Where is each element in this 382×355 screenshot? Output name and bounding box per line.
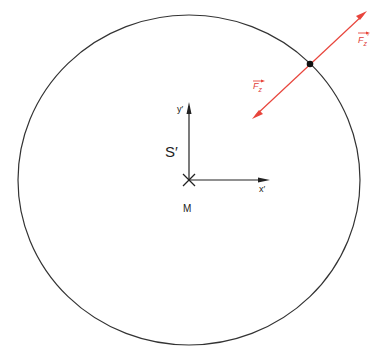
frame-label: S′ xyxy=(165,143,178,160)
diagram-canvas xyxy=(0,0,382,355)
force-upper-sub: z xyxy=(364,40,368,47)
force-arrowhead-lower xyxy=(252,110,263,119)
x-axis-label: x′ xyxy=(259,184,265,194)
contact-point xyxy=(307,61,314,68)
force-label-upper: Fz′ xyxy=(358,33,368,47)
force-lower-sub: z xyxy=(259,86,263,93)
y-axis-label: y′ xyxy=(177,104,183,114)
force-upper-prime: ′ xyxy=(367,33,368,40)
force-label-lower: Fz xyxy=(253,81,262,93)
x-axis-arrowhead xyxy=(258,178,270,183)
force-arrowhead-upper xyxy=(356,11,367,20)
y-axis-arrowhead xyxy=(187,102,192,114)
origin-label: M xyxy=(183,203,191,214)
